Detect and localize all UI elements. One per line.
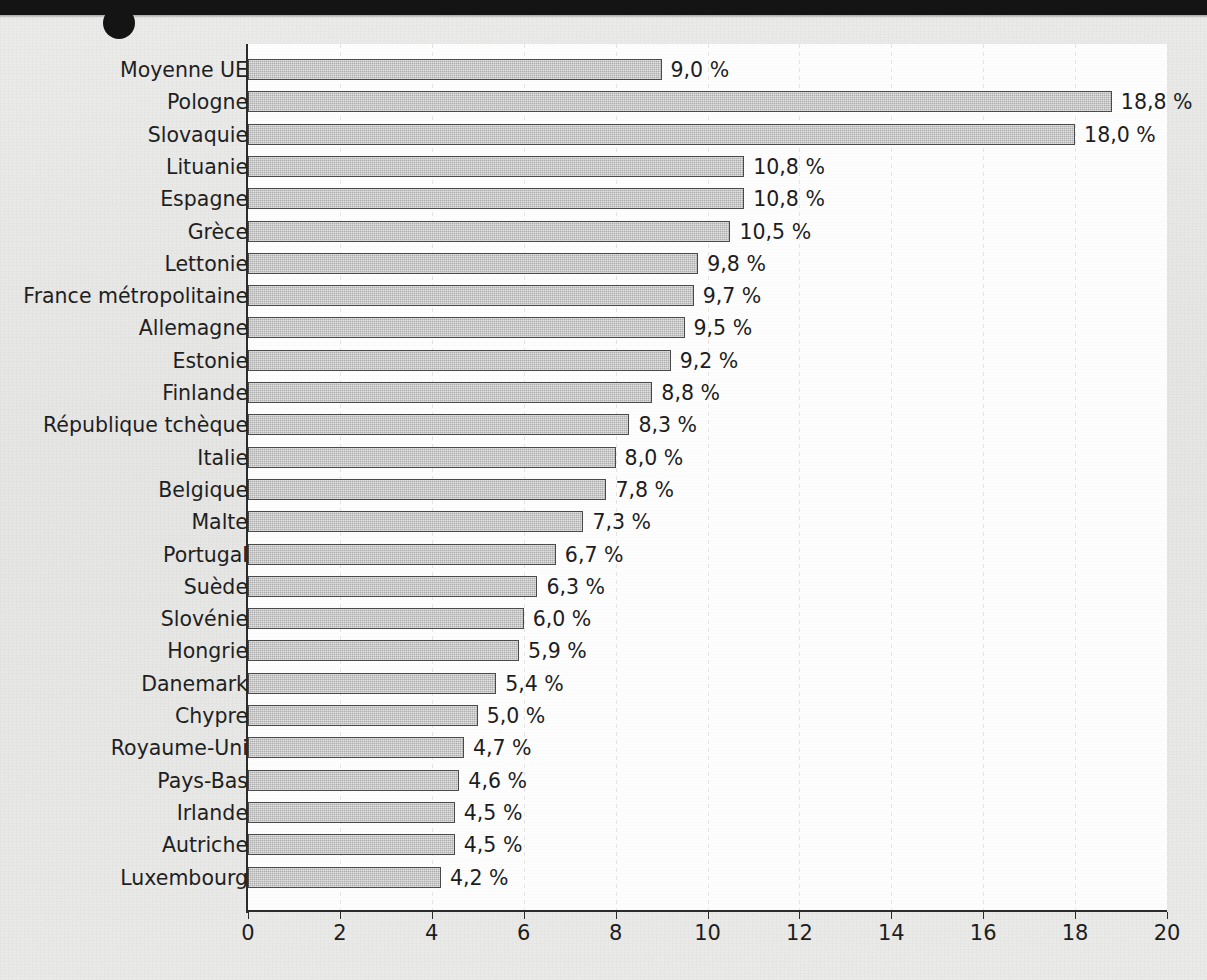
x-axis-tick-label: 0 [218, 921, 278, 945]
bar-row: République tchèque8,3 % [0, 409, 1207, 441]
x-axis-tick [708, 912, 709, 919]
bar-row: France métropolitaine9,7 % [0, 280, 1207, 312]
bar-value-label: 7,3 % [592, 506, 651, 538]
bar-row: Hongrie5,9 % [0, 635, 1207, 667]
x-axis-tick-label: 18 [1045, 921, 1105, 945]
bar [248, 285, 694, 306]
category-label: Moyenne UE [120, 54, 248, 86]
category-label: Royaume-Uni [111, 732, 248, 764]
category-label: Suède [184, 571, 248, 603]
category-label: Espagne [160, 183, 248, 215]
bar-value-label: 4,5 % [464, 829, 523, 861]
bar [248, 479, 606, 500]
x-axis-tick-label: 20 [1137, 921, 1197, 945]
bar-value-label: 9,8 % [707, 248, 766, 280]
bar [248, 124, 1075, 145]
bar [248, 221, 730, 242]
bar-row: Lituanie10,8 % [0, 151, 1207, 183]
x-axis-tick [891, 912, 892, 919]
category-label: Pologne [167, 86, 248, 118]
bar-value-label: 10,8 % [753, 151, 825, 183]
bar-value-label: 9,5 % [694, 312, 753, 344]
x-axis-line [246, 910, 1167, 912]
header-band-shadow [0, 15, 1207, 18]
bar [248, 253, 698, 274]
bar [248, 640, 519, 661]
category-label: Slovaquie [148, 119, 248, 151]
category-label: Belgique [158, 474, 248, 506]
bar-value-label: 10,5 % [739, 216, 811, 248]
bar-row: Portugal6,7 % [0, 539, 1207, 571]
bar-row: Allemagne9,5 % [0, 312, 1207, 344]
category-label: Allemagne [139, 312, 248, 344]
bar-row: Slovaquie18,0 % [0, 119, 1207, 151]
bar-row: Moyenne UE9,0 % [0, 54, 1207, 86]
bar-row: Slovénie6,0 % [0, 603, 1207, 635]
x-axis-tick-label: 14 [861, 921, 921, 945]
x-axis-tick-label: 10 [678, 921, 738, 945]
bar [248, 188, 744, 209]
bar-value-label: 8,8 % [661, 377, 720, 409]
bar-value-label: 6,3 % [546, 571, 605, 603]
bar [248, 447, 616, 468]
category-label: Lettonie [164, 248, 248, 280]
bar-rows-group: Moyenne UE9,0 %Pologne18,8 %Slovaquie18,… [0, 44, 1207, 910]
x-axis-tick-label: 6 [494, 921, 554, 945]
bar-value-label: 5,0 % [487, 700, 546, 732]
x-axis-tick-label: 12 [769, 921, 829, 945]
page-header-black-band [0, 0, 1207, 15]
x-axis-tick-label: 16 [953, 921, 1013, 945]
bar-value-label: 4,2 % [450, 862, 509, 894]
bar [248, 156, 744, 177]
x-axis-tick-label: 4 [402, 921, 462, 945]
category-label: Malte [191, 506, 248, 538]
bar-row: Finlande8,8 % [0, 377, 1207, 409]
category-label: Grèce [188, 216, 248, 248]
bar [248, 59, 662, 80]
x-axis-tick-label: 2 [310, 921, 370, 945]
bar-value-label: 10,8 % [753, 183, 825, 215]
bar-value-label: 6,0 % [533, 603, 592, 635]
bar-row: Chypre5,0 % [0, 700, 1207, 732]
bar-row: Danemark5,4 % [0, 668, 1207, 700]
bar-row: Malte7,3 % [0, 506, 1207, 538]
category-label: Danemark [141, 668, 248, 700]
bar-row: Belgique7,8 % [0, 474, 1207, 506]
bar-value-label: 7,8 % [615, 474, 674, 506]
category-label: Slovénie [161, 603, 248, 635]
category-label: Luxembourg [120, 862, 248, 894]
bar [248, 414, 629, 435]
bar [248, 544, 556, 565]
category-label: Portugal [163, 539, 248, 571]
bar-row: Autriche4,5 % [0, 829, 1207, 861]
bar [248, 705, 478, 726]
x-axis-tick [616, 912, 617, 919]
category-label: Irlande [177, 797, 248, 829]
bar-value-label: 8,3 % [638, 409, 697, 441]
bar [248, 802, 455, 823]
bar-value-label: 9,0 % [671, 54, 730, 86]
x-axis-tick [983, 912, 984, 919]
bar [248, 350, 671, 371]
category-label: Italie [197, 442, 248, 474]
x-axis-tick-label: 8 [586, 921, 646, 945]
bar [248, 382, 652, 403]
bar-row: Grèce10,5 % [0, 216, 1207, 248]
bar-row: Pologne18,8 % [0, 86, 1207, 118]
bar-row: Estonie9,2 % [0, 345, 1207, 377]
bar-row: Suède6,3 % [0, 571, 1207, 603]
bar [248, 91, 1112, 112]
bar-row: Espagne10,8 % [0, 183, 1207, 215]
x-axis-tick [248, 912, 249, 919]
bar-value-label: 4,6 % [468, 765, 527, 797]
bar [248, 737, 464, 758]
bar-row: Lettonie9,8 % [0, 248, 1207, 280]
category-label: Finlande [162, 377, 248, 409]
bar-value-label: 6,7 % [565, 539, 624, 571]
category-label: Chypre [175, 700, 248, 732]
bar-row: Luxembourg4,2 % [0, 862, 1207, 894]
x-axis-tick [524, 912, 525, 919]
bar-value-label: 5,4 % [505, 668, 564, 700]
bar [248, 608, 524, 629]
bar [248, 867, 441, 888]
